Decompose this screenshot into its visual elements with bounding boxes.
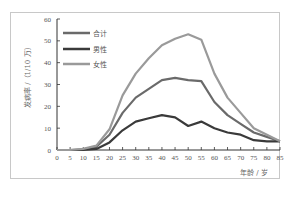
series-line-0 [57, 78, 280, 150]
y-tick-label: 0 [48, 147, 52, 155]
legend-label: 女性 [93, 60, 107, 69]
x-tick-label: 10 [80, 154, 88, 162]
legend: 合计男性女性 [63, 29, 107, 69]
y-tick-label: 60 [44, 16, 52, 24]
x-tick-label: 20 [106, 154, 114, 162]
x-axis-title: 年龄 / 岁 [240, 168, 268, 177]
series-lines [57, 34, 280, 150]
series-line-2 [57, 34, 280, 150]
y-tick-label: 50 [44, 37, 52, 45]
axes: 0102030405060051015202530354045505560657… [44, 16, 284, 163]
x-tick-label: 65 [224, 154, 232, 162]
x-tick-label: 0 [55, 154, 59, 162]
x-tick-label: 75 [250, 154, 258, 162]
x-tick-label: 55 [198, 154, 206, 162]
x-tick-label: 85 [277, 154, 285, 162]
x-tick-label: 60 [211, 154, 219, 162]
x-tick-label: 45 [172, 154, 180, 162]
y-tick-label: 20 [44, 103, 52, 111]
y-tick-label: 40 [44, 59, 52, 67]
x-tick-label: 80 [263, 154, 271, 162]
legend-label: 合计 [93, 29, 107, 38]
line-chart: 0102030405060051015202530354045505560657… [0, 0, 299, 203]
y-axis-title: 发病率 /（1/10 万） [23, 43, 32, 108]
x-tick-label: 15 [93, 154, 101, 162]
legend-label: 男性 [93, 45, 107, 54]
y-tick-label: 10 [44, 125, 52, 133]
x-tick-label: 25 [119, 154, 127, 162]
y-tick-label: 30 [44, 81, 52, 89]
x-tick-label: 40 [158, 154, 166, 162]
x-tick-label: 50 [185, 154, 193, 162]
x-tick-label: 70 [237, 154, 245, 162]
x-tick-label: 35 [145, 154, 153, 162]
x-tick-label: 30 [132, 154, 140, 162]
x-tick-label: 5 [68, 154, 72, 162]
